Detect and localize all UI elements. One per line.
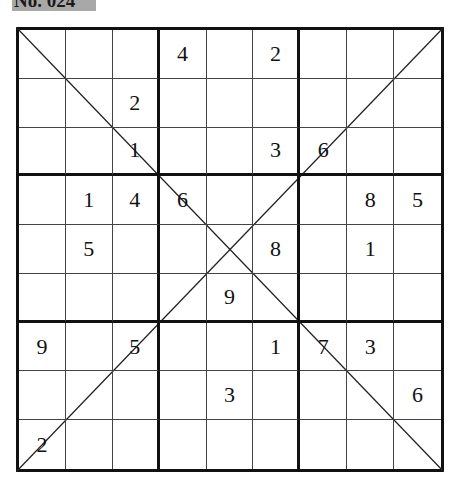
cell-r8-c8[interactable] — [347, 371, 394, 420]
cell-r3-c1[interactable] — [19, 128, 66, 177]
cell-r7-c4[interactable] — [160, 323, 207, 372]
cell-r7-c1[interactable]: 9 — [19, 323, 66, 372]
cell-r4-c4[interactable]: 6 — [160, 176, 207, 225]
cell-r6-c9[interactable] — [394, 274, 441, 323]
cell-r3-c6[interactable]: 3 — [253, 128, 300, 177]
cell-r8-c4[interactable] — [160, 371, 207, 420]
cell-r7-c3[interactable]: 5 — [113, 323, 160, 372]
cell-r4-c3[interactable]: 4 — [113, 176, 160, 225]
cell-r8-c7[interactable] — [300, 371, 347, 420]
cell-r6-c7[interactable] — [300, 274, 347, 323]
cell-r1-c1[interactable] — [19, 30, 66, 79]
cell-r9-c7[interactable] — [300, 420, 347, 469]
cell-r6-c2[interactable] — [66, 274, 113, 323]
cell-r7-c6[interactable]: 1 — [253, 323, 300, 372]
cell-r1-c7[interactable] — [300, 30, 347, 79]
cell-r5-c1[interactable] — [19, 225, 66, 274]
cell-r1-c3[interactable] — [113, 30, 160, 79]
cell-r6-c3[interactable] — [113, 274, 160, 323]
cell-r5-c5[interactable] — [207, 225, 254, 274]
cell-r3-c4[interactable] — [160, 128, 207, 177]
cell-r8-c9[interactable]: 6 — [394, 371, 441, 420]
cell-r4-c2[interactable]: 1 — [66, 176, 113, 225]
cell-r3-c2[interactable] — [66, 128, 113, 177]
cell-r8-c6[interactable] — [253, 371, 300, 420]
cell-r6-c5[interactable]: 9 — [207, 274, 254, 323]
cell-r9-c3[interactable] — [113, 420, 160, 469]
cell-r4-c8[interactable]: 8 — [347, 176, 394, 225]
cell-r6-c4[interactable] — [160, 274, 207, 323]
cell-r2-c6[interactable] — [253, 79, 300, 128]
cell-r3-c7[interactable]: 6 — [300, 128, 347, 177]
puzzle-number-label: No. 024 — [12, 0, 96, 11]
cell-r1-c2[interactable] — [66, 30, 113, 79]
cell-r8-c1[interactable] — [19, 371, 66, 420]
cell-r2-c8[interactable] — [347, 79, 394, 128]
cell-r4-c1[interactable] — [19, 176, 66, 225]
cell-r9-c5[interactable] — [207, 420, 254, 469]
cell-r3-c5[interactable] — [207, 128, 254, 177]
cell-r5-c7[interactable] — [300, 225, 347, 274]
cell-r3-c3[interactable]: 1 — [113, 128, 160, 177]
cell-r7-c9[interactable] — [394, 323, 441, 372]
cell-r5-c2[interactable]: 5 — [66, 225, 113, 274]
cell-r9-c4[interactable] — [160, 420, 207, 469]
cell-r6-c1[interactable] — [19, 274, 66, 323]
cell-r1-c8[interactable] — [347, 30, 394, 79]
cell-r9-c6[interactable] — [253, 420, 300, 469]
cell-r7-c7[interactable]: 7 — [300, 323, 347, 372]
cell-r8-c2[interactable] — [66, 371, 113, 420]
cell-r6-c6[interactable] — [253, 274, 300, 323]
cell-r5-c3[interactable] — [113, 225, 160, 274]
cell-r2-c4[interactable] — [160, 79, 207, 128]
cell-r6-c8[interactable] — [347, 274, 394, 323]
cell-r9-c2[interactable] — [66, 420, 113, 469]
cell-r8-c5[interactable]: 3 — [207, 371, 254, 420]
cell-r2-c2[interactable] — [66, 79, 113, 128]
cell-r9-c9[interactable] — [394, 420, 441, 469]
cell-r2-c5[interactable] — [207, 79, 254, 128]
cell-r4-c9[interactable]: 5 — [394, 176, 441, 225]
cell-r2-c3[interactable]: 2 — [113, 79, 160, 128]
cell-r5-c9[interactable] — [394, 225, 441, 274]
cell-r7-c8[interactable]: 3 — [347, 323, 394, 372]
cell-r2-c1[interactable] — [19, 79, 66, 128]
cell-r4-c7[interactable] — [300, 176, 347, 225]
cell-r7-c2[interactable] — [66, 323, 113, 372]
cell-r5-c6[interactable]: 8 — [253, 225, 300, 274]
cell-r7-c5[interactable] — [207, 323, 254, 372]
cell-r1-c6[interactable]: 2 — [253, 30, 300, 79]
cell-r2-c7[interactable] — [300, 79, 347, 128]
cell-r9-c1[interactable]: 2 — [19, 420, 66, 469]
cell-r1-c9[interactable] — [394, 30, 441, 79]
cell-r1-c4[interactable]: 4 — [160, 30, 207, 79]
cell-r3-c9[interactable] — [394, 128, 441, 177]
cell-r1-c5[interactable] — [207, 30, 254, 79]
cell-r5-c8[interactable]: 1 — [347, 225, 394, 274]
cell-r8-c3[interactable] — [113, 371, 160, 420]
cell-r4-c5[interactable] — [207, 176, 254, 225]
cell-r3-c8[interactable] — [347, 128, 394, 177]
cell-r9-c8[interactable] — [347, 420, 394, 469]
cell-r4-c6[interactable] — [253, 176, 300, 225]
cell-r2-c9[interactable] — [394, 79, 441, 128]
cell-r5-c4[interactable] — [160, 225, 207, 274]
sudoku-board: 42213614685581995173362 — [16, 27, 444, 472]
